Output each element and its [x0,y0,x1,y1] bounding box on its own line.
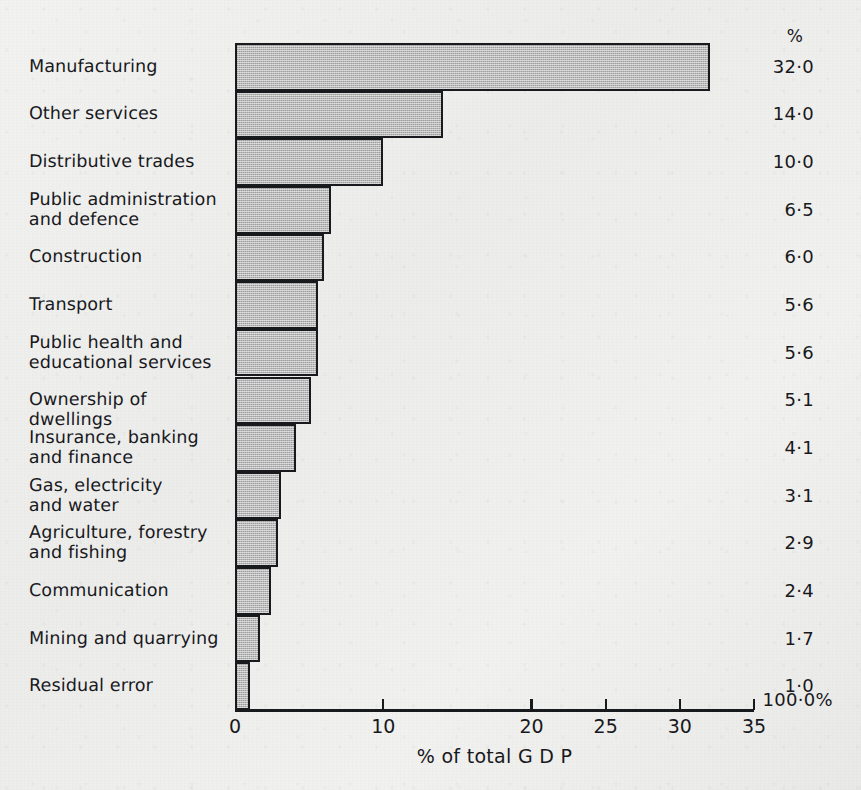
bar [235,519,278,567]
x-axis-tick [753,699,755,710]
value-label: 32·0 [694,57,814,77]
value-label: 6·5 [694,200,814,220]
x-axis-tick [382,699,384,710]
bar [235,662,250,710]
x-axis-tick-label: 30 [668,715,692,737]
bar [235,43,710,91]
category-label: Ownership of dwellings [29,389,234,429]
bar [235,281,318,329]
value-label: 5·1 [694,390,814,410]
bar [235,91,443,139]
value-label: 14·0 [694,104,814,124]
category-label: Manufacturing [29,56,234,76]
bar [235,424,296,472]
bar-chart: % Manufacturing32·0Other services14·0Dis… [0,0,861,790]
category-label: Insurance, banking and finance [29,427,234,467]
value-label: 4·1 [694,438,814,458]
x-axis-line [235,709,754,712]
bar [235,329,318,377]
value-label: 1·7 [694,629,814,649]
x-axis-tick [605,699,607,710]
category-label: Agriculture, forestry and fishing [29,522,234,562]
category-label: Mining and quarrying [29,628,234,648]
x-axis-title: % of total G D P [235,745,754,767]
bar [235,377,311,425]
category-label: Distributive trades [29,151,234,171]
x-axis-tick [530,699,532,710]
x-axis-tick-label: 20 [519,715,543,737]
category-label: Transport [29,294,234,314]
value-column-total: 100·0% [763,690,833,710]
bar [235,138,383,186]
value-label: 10·0 [694,152,814,172]
x-axis-tick [679,699,681,710]
bar [235,472,281,520]
category-label: Construction [29,246,234,266]
category-label: Gas, electricity and water [29,475,234,515]
bar [235,615,260,663]
bar [235,234,324,282]
x-axis-tick-label: 10 [371,715,395,737]
bar [235,567,271,615]
x-axis-tick-label: 0 [229,715,241,737]
value-column-header: % [787,27,803,45]
x-axis-tick-label: 35 [742,715,766,737]
value-label: 5·6 [694,343,814,363]
category-label: Other services [29,103,234,123]
category-label: Communication [29,580,234,600]
x-axis-tick-label: 25 [594,715,618,737]
bar [235,186,331,234]
value-label: 6·0 [694,247,814,267]
category-label: Residual error [29,675,234,695]
category-label: Public health and educational services [29,332,234,372]
chart-page: % Manufacturing32·0Other services14·0Dis… [0,0,861,790]
value-label: 5·6 [694,295,814,315]
category-label: Public administration and defence [29,189,234,229]
value-label: 3·1 [694,486,814,506]
value-label: 2·9 [694,533,814,553]
value-label: 2·4 [694,581,814,601]
